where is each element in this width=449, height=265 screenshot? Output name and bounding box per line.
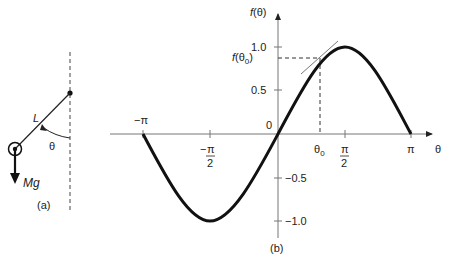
y-tick-label-neg-1: −1.0 (285, 215, 307, 227)
gravity-arrow-head (10, 173, 20, 184)
f-theta0-label: f(θ0) (232, 51, 253, 66)
sine-plot: f(θ) θ 1.0 0.5 −0.5 −1.0 f(θ0) 0 −π − π … (110, 6, 441, 254)
panel-a-caption: (a) (37, 199, 50, 211)
y-tick-label-0-5: 0.5 (251, 84, 266, 96)
pendulum-diagram: L θ Mg (a) (9, 52, 73, 211)
svg-text:−: − (200, 143, 206, 155)
angle-arc-arrowhead (40, 124, 47, 131)
x-tick-label-neg-half-pi: − π 2 (200, 143, 215, 169)
y-tick-label-1: 1.0 (251, 41, 266, 53)
figure: L θ Mg (a) f(θ) θ 1.0 0.5 −0.5 (0, 0, 449, 265)
angle-arc-icon (44, 128, 70, 138)
panel-b-caption: (b) (270, 242, 283, 254)
x-axis-label: θ (435, 143, 441, 155)
theta0-tick-label: θ0 (314, 143, 325, 158)
x-tick-label-neg-pi: −π (134, 114, 148, 126)
svg-text:π: π (207, 143, 215, 155)
pendulum-rod (16, 93, 70, 148)
y-axis-label: f(θ) (250, 6, 267, 18)
angle-label: θ (49, 140, 55, 152)
y-tick-label-neg-0-5: −0.5 (285, 172, 307, 184)
x-tick-label-pi: π (407, 143, 415, 155)
svg-text:2: 2 (207, 157, 213, 169)
origin-label: 0 (266, 119, 272, 131)
force-label: Mg (23, 176, 40, 190)
x-tick-label-half-pi: π 2 (340, 143, 349, 169)
svg-text:π: π (341, 143, 349, 155)
length-label: L (33, 112, 39, 124)
svg-text:2: 2 (341, 157, 347, 169)
